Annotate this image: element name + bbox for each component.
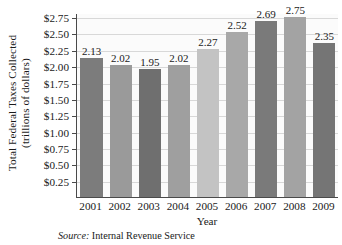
y-axis-tick-label: $1.75 xyxy=(44,78,69,90)
bar-slot: 2.02 xyxy=(106,14,135,197)
bar-slot: 2.69 xyxy=(252,14,281,197)
bar-slot: 2.35 xyxy=(310,14,339,197)
bar[interactable] xyxy=(284,17,306,197)
bar[interactable] xyxy=(255,21,277,197)
bar-slot: 1.95 xyxy=(135,14,164,197)
y-axis-tick-label: $0.25 xyxy=(44,176,69,188)
bar[interactable] xyxy=(110,65,132,197)
x-axis-tick-labels: 200120022003200420052006200720082009 xyxy=(76,200,338,216)
bar[interactable] xyxy=(168,65,190,197)
x-axis-tick-label: 2003 xyxy=(138,200,160,212)
x-axis-tick-label: 2008 xyxy=(283,200,305,212)
x-axis-tick-label: 2002 xyxy=(108,200,130,212)
bar-slot: 2.75 xyxy=(281,14,310,197)
x-axis-title: Year xyxy=(76,215,338,227)
bar-value-label: 2.02 xyxy=(169,52,188,64)
y-axis-tick-label: $0.50 xyxy=(44,159,69,171)
y-axis-tick-label: $1.50 xyxy=(44,94,69,106)
bar-value-label: 2.69 xyxy=(257,8,276,20)
bar-value-label: 2.27 xyxy=(198,36,217,48)
bar-value-label: 2.75 xyxy=(286,4,305,16)
bar[interactable] xyxy=(80,58,102,197)
plot-area: 2.132.021.952.022.272.522.692.752.35 xyxy=(76,14,338,198)
source-note: Source: Internal Revenue Service xyxy=(58,230,195,241)
x-axis-tick-label: 2001 xyxy=(79,200,101,212)
y-axis-tick-labels: $0.25$0.50$0.75$1.00$1.25$1.50$1.75$2.00… xyxy=(18,8,72,200)
y-axis-tick-label: $1.00 xyxy=(44,127,69,139)
y-axis-tick-label: $2.00 xyxy=(44,61,69,73)
bar-slot: 2.02 xyxy=(164,14,193,197)
bar-chart-figure: Total Federal Taxes Collected (trillions… xyxy=(0,0,342,245)
bar-value-label: 2.13 xyxy=(82,45,101,57)
bar[interactable] xyxy=(139,69,161,197)
y-axis-tick-label: $0.75 xyxy=(44,143,69,155)
x-axis-tick-label: 2004 xyxy=(167,200,189,212)
bar[interactable] xyxy=(226,32,248,197)
y-axis-tick-label: $1.25 xyxy=(44,110,69,122)
bar-value-label: 2.35 xyxy=(315,30,334,42)
bar-series: 2.132.021.952.022.272.522.692.752.35 xyxy=(77,14,338,197)
bar-value-label: 2.02 xyxy=(111,52,130,64)
bar[interactable] xyxy=(197,49,219,198)
y-axis-tick-label: $2.25 xyxy=(44,45,69,57)
bar-slot: 2.13 xyxy=(77,14,106,197)
y-axis-tick-label: $2.50 xyxy=(44,28,69,40)
bar-value-label: 2.52 xyxy=(227,19,246,31)
bar-value-label: 1.95 xyxy=(140,56,159,68)
source-note-label: Source: xyxy=(58,230,89,241)
bar-slot: 2.52 xyxy=(223,14,252,197)
x-axis-tick-label: 2006 xyxy=(225,200,247,212)
x-axis-tick-label: 2009 xyxy=(312,200,334,212)
source-note-text: Internal Revenue Service xyxy=(89,230,195,241)
bar[interactable] xyxy=(313,43,335,197)
y-axis-tick-label: $2.75 xyxy=(44,12,69,24)
x-axis-tick-label: 2007 xyxy=(254,200,276,212)
bar-slot: 2.27 xyxy=(193,14,222,197)
x-axis-tick-label: 2005 xyxy=(196,200,218,212)
